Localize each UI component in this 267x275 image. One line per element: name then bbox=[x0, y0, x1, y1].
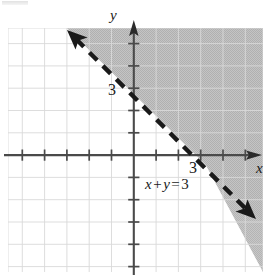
equation-equals: = bbox=[170, 176, 181, 192]
equation-label: x+y=3 bbox=[145, 177, 189, 192]
x-axis-label: x bbox=[256, 161, 263, 176]
equation-var-y: y bbox=[163, 176, 170, 192]
graph-canvas bbox=[0, 0, 267, 275]
coordinate-plane-figure: y x 3 3 x+y=3 bbox=[0, 0, 267, 275]
x-intercept-tick-label: 3 bbox=[189, 160, 197, 176]
equation-rhs: 3 bbox=[181, 176, 189, 192]
y-intercept-tick-label: 3 bbox=[108, 82, 116, 98]
y-axis-label: y bbox=[110, 8, 117, 23]
equation-plus: + bbox=[152, 176, 163, 192]
equation-var-x: x bbox=[145, 176, 152, 192]
shaded-solution-region bbox=[67, 28, 263, 272]
